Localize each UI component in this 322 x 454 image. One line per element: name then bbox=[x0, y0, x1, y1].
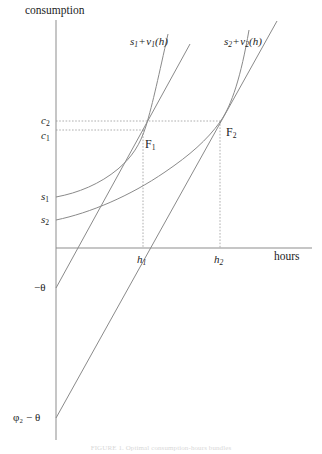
y-tick-label-phi2-minus-theta: φ₂ − θ bbox=[13, 412, 40, 423]
x-tick-h1-sub: 1 bbox=[143, 258, 147, 267]
x-axis-label: hours bbox=[274, 251, 300, 263]
curve2-arg: (h) bbox=[249, 35, 262, 47]
x-tick-h1-base: h bbox=[137, 253, 143, 265]
y-tick-label-c1: c1 bbox=[41, 130, 50, 141]
x-tick-label-h2: h2 bbox=[214, 254, 223, 265]
figure-container: consumption hours s1+v1(h) s2+v2(h) c2 c… bbox=[0, 0, 322, 454]
y-tick-label-s1: s1 bbox=[41, 191, 49, 202]
curve-label-s2-v2: s2+v2(h) bbox=[224, 36, 262, 47]
y-tick-label-s2: s2 bbox=[41, 214, 49, 225]
point-label-f1: F1 bbox=[145, 138, 155, 150]
curve1-fnsub: 1 bbox=[151, 40, 155, 49]
curves-group bbox=[56, 21, 277, 418]
y-tick-s1-sub: 1 bbox=[45, 195, 49, 204]
curve-label-s1-v1: s1+v1(h) bbox=[130, 36, 168, 47]
point-label-f2: F2 bbox=[226, 126, 236, 138]
curve1-sub: 1 bbox=[134, 40, 138, 49]
y-tick-c2-sub: 2 bbox=[46, 119, 50, 128]
point-f1-sub: 1 bbox=[152, 143, 156, 152]
curve2-fnsub: 2 bbox=[245, 40, 249, 49]
line-tangent-f2 bbox=[56, 21, 277, 418]
figure-plot bbox=[0, 0, 322, 454]
curve2-sub: 2 bbox=[228, 40, 232, 49]
y-tick-s2-sub: 2 bbox=[45, 218, 49, 227]
y-tick-label-neg-theta: −θ bbox=[34, 282, 45, 293]
curve1-arg: (h) bbox=[155, 35, 168, 47]
figure-caption: FIGURE 1. Optimal consumption-hours bund… bbox=[0, 444, 322, 452]
guide-lines-group bbox=[56, 121, 221, 248]
point-f2-sub: 2 bbox=[233, 131, 237, 140]
line-tangent-f1 bbox=[56, 44, 190, 288]
x-tick-label-h1: h1 bbox=[137, 254, 146, 265]
point-f1-base: F bbox=[145, 137, 152, 151]
point-f2-base: F bbox=[226, 125, 233, 139]
axes-group bbox=[56, 20, 312, 440]
y-tick-label-c2: c2 bbox=[41, 115, 50, 126]
x-tick-h2-sub: 2 bbox=[220, 258, 224, 267]
y-tick-c1-sub: 1 bbox=[46, 134, 50, 143]
y-axis-label: consumption bbox=[25, 5, 84, 17]
x-tick-h2-base: h bbox=[214, 253, 220, 265]
